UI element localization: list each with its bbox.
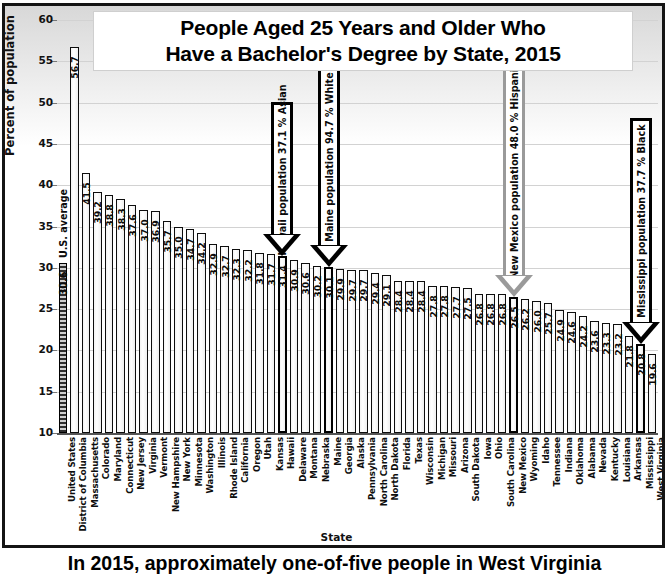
bar-item: 34.7 (186, 20, 195, 433)
x-tick-label: Tennessee (552, 437, 562, 487)
chart-screenshot: People Aged 25 Years and Older Who Have … (0, 0, 669, 579)
x-tick-label: Nevada (598, 437, 608, 473)
callout-label: Hawaii population 37.1 % Asian (277, 84, 288, 255)
x-tick-label: Michigan (437, 437, 447, 480)
bar-value-label: 19.6 (647, 363, 658, 385)
bar-item: 27.7 (451, 20, 460, 433)
callout-label: New Mexico population 48.0 % Hispanic (508, 63, 519, 279)
bar-value-label: 20.8 (635, 353, 646, 375)
x-tick-label: Rhode Island (229, 437, 239, 499)
bar-item: 29.4 (371, 20, 380, 433)
chart-panel: People Aged 25 Years and Older Who Have … (2, 3, 665, 548)
bar-value-label: 32.9 (208, 253, 219, 275)
bar-item: 23.3 (602, 20, 611, 433)
bar-item: 25.7 (544, 20, 553, 433)
y-tick-label: 50 (19, 96, 53, 108)
bar-value-label: 32.2 (242, 259, 253, 281)
bar-item: 26.0 (532, 20, 541, 433)
bar-item: 39.2 (93, 20, 102, 433)
bar-value-label: 30.9 (288, 270, 299, 292)
x-tick-label: Connecticut (125, 437, 135, 494)
x-tick-label: Missouri (448, 437, 458, 477)
bar-value-label: 29.9 (335, 278, 346, 300)
x-tick-label: New Mexico (518, 437, 528, 494)
x-tick-label: Kentucky (610, 437, 620, 481)
callout-shaft: Hawaii population 37.1 % Asian (271, 102, 293, 234)
x-tick-label: Montana (309, 437, 319, 479)
bar (93, 192, 102, 433)
bar (116, 199, 125, 433)
x-tick-label: Virginia (148, 437, 158, 474)
x-tick-label: Florida (402, 437, 412, 470)
y-axis-label: Percent of population (3, 15, 17, 156)
x-tick-label: Vermont (159, 437, 169, 478)
bar-value-label: 29.4 (369, 282, 380, 304)
x-tick-label: New Hampshire (171, 437, 181, 512)
bar-value-label: 30.2 (312, 275, 323, 297)
x-tick-label: South Dakota (471, 437, 481, 501)
x-tick-label: Oregon (252, 437, 262, 472)
bar-item: 34.2 (197, 20, 206, 433)
x-tick-label: Texas (414, 437, 424, 464)
y-tick-label: 25 (19, 302, 53, 314)
bar-item: 28.4 (417, 20, 426, 433)
bar-value-label: 31.4 (277, 266, 288, 288)
x-tick-label: Pennsylvania (367, 437, 377, 500)
callout-arrowhead (263, 234, 301, 256)
bar-value-label: 34.2 (196, 242, 207, 264)
bar-item: 24.6 (567, 20, 576, 433)
x-tick-label: South Carolina (506, 437, 516, 507)
x-tick-label: Louisiana (622, 437, 632, 482)
bar-value-label: 38.3 (115, 209, 126, 231)
bar-value-label: 31.7 (265, 263, 276, 285)
x-tick-label: Mississippi (645, 437, 655, 489)
callout-arrow: New Mexico population 48.0 % Hispanic (494, 64, 534, 297)
bar (139, 210, 148, 433)
bar-value-label: 23.6 (589, 330, 600, 352)
bar-value-label: 21.8 (624, 345, 635, 367)
x-axis-tick-labels: United StatesDistrict of ColumbiaMassach… (57, 437, 658, 541)
x-tick-label: Kansas (275, 437, 285, 471)
bar-value-label: 56.7 (69, 57, 80, 79)
x-tick-label: Massachusetts (90, 437, 100, 508)
x-tick-label: North Dakota (390, 437, 400, 501)
x-tick-label: United States (67, 437, 77, 502)
x-tick-label: Arkansas (633, 437, 643, 481)
bar-item: 27.8 (428, 20, 437, 433)
bar-value-label: 28.4 (404, 290, 415, 312)
bar-value-label: 27.5 (462, 298, 473, 320)
bar-value-label: 35.0 (173, 236, 184, 258)
bar-series: 30.6U.S. average56.741.539.238.838.337.6… (57, 20, 658, 433)
bar (128, 205, 137, 433)
x-tick-label: New Jersey (136, 437, 146, 490)
callout-shaft: New Mexico population 48.0 % Hispanic (503, 64, 525, 275)
bar-value-label: 39.2 (92, 201, 103, 223)
bar-value-label: 29.1 (381, 285, 392, 307)
x-tick-label: North Carolina (379, 437, 389, 506)
x-tick-label: Georgia (344, 437, 354, 474)
bar-value-label: 26.8 (473, 304, 484, 326)
y-tick-label: 15 (19, 385, 53, 397)
bar-value-label: 30.1 (323, 276, 334, 298)
bar-value-label: 26.8 (485, 304, 496, 326)
bar-value-label: 24.6 (566, 322, 577, 344)
bar-item: 29.1 (382, 20, 391, 433)
us-average-label: U.S. average (57, 189, 68, 258)
bar-value-label: 29.7 (358, 280, 369, 302)
x-tick-label: Iowa (483, 437, 493, 459)
chart-title: People Aged 25 Years and Older Who Have … (93, 11, 633, 71)
bar-value-label: 37.6 (127, 214, 138, 236)
x-tick-label: Wisconsin (425, 437, 435, 485)
y-tick-label: 10 (19, 426, 53, 438)
bar-value-label: 34.7 (184, 238, 195, 260)
callout-label: Mississippi population 37.7 % Black (635, 125, 646, 318)
bar (151, 211, 160, 433)
bar-value-label: 27.8 (427, 295, 438, 317)
bar-item: 41.5 (82, 20, 91, 433)
x-tick-label: Oklahoma (575, 437, 585, 485)
bar-value-label: 38.8 (103, 204, 114, 226)
bar-value-label: 28.4 (416, 290, 427, 312)
bar-item: 35.0 (174, 20, 183, 433)
bar-value-label: 24.2 (577, 325, 588, 347)
bar-item: 38.8 (105, 20, 114, 433)
